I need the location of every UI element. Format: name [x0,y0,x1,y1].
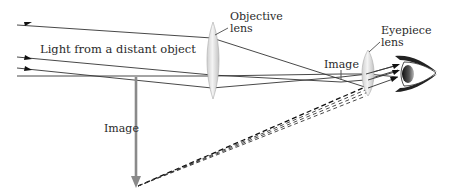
arrow-head-icon [392,70,400,75]
dashed-ray [138,96,366,186]
arrow-head-icon [390,77,398,82]
ray-top [17,25,368,88]
arrow-head-icon [24,55,32,60]
arrow-head-icon [24,66,32,71]
telescope-ray-diagram: Light from a distant object Objective le… [0,0,464,192]
light-source-label: Light from a distant object [40,42,196,56]
objective-leader-line [215,28,228,35]
ray-arrowheads [24,22,32,71]
intermediate-image-label: Image [324,58,359,71]
eyepiece-leader-line [369,42,380,52]
eye-icon [395,56,437,92]
iris [402,65,414,83]
final-image-arrowhead-icon [131,176,141,188]
objective-label-line2: lens [230,22,253,35]
arrow-head-icon [392,64,400,69]
final-image-label: Image [104,122,139,135]
virtual-ray-extensions [138,84,372,186]
eyepiece-label-line2: lens [381,36,404,49]
